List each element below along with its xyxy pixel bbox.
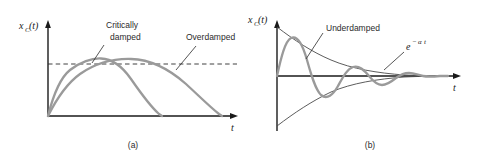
panel-b-caption: (b) bbox=[365, 140, 376, 150]
overdamped-leader-line bbox=[176, 46, 196, 70]
envelope-label: e − α t bbox=[406, 38, 427, 52]
critically-damped-label-line1: Critically bbox=[106, 20, 139, 30]
panel-b: x C (t) t Underdamped e − α t (b) bbox=[247, 14, 461, 150]
underdamped-curve bbox=[277, 38, 448, 97]
critically-damped-label: Critically damped bbox=[106, 20, 141, 42]
panel-a-x-axis bbox=[48, 113, 238, 119]
critically-damped-leader-line bbox=[92, 45, 104, 63]
panel-b-y-axis-label: x C (t) bbox=[247, 14, 268, 28]
panel-b-y-label-base: x bbox=[247, 14, 253, 25]
panel-a-y-label-base: x bbox=[18, 20, 24, 31]
panel-a-caption: (a) bbox=[128, 140, 139, 150]
panel-a: x C (t) t Critically damped Overdamped (… bbox=[18, 20, 238, 150]
panel-b-x-axis-label: t bbox=[453, 82, 456, 93]
overdamped-label: Overdamped bbox=[186, 32, 235, 42]
envelope-label-base: e bbox=[406, 41, 411, 52]
envelope-label-t: t bbox=[424, 38, 427, 46]
critically-damped-label-line2: damped bbox=[110, 32, 141, 42]
damped-response-figure: x C (t) t Critically damped Overdamped (… bbox=[0, 0, 480, 156]
envelope-label-minus: − bbox=[412, 38, 417, 46]
envelope-label-alpha: α bbox=[418, 38, 422, 46]
figure-container: x C (t) t Critically damped Overdamped (… bbox=[0, 0, 480, 156]
lower-envelope-curve bbox=[277, 76, 448, 126]
envelope-leader-line bbox=[384, 52, 404, 70]
panel-a-y-label-arg: (t) bbox=[29, 20, 39, 32]
underdamped-label: Underdamped bbox=[326, 23, 380, 33]
panel-a-y-axis bbox=[45, 20, 51, 116]
panel-a-y-axis-label: x C (t) bbox=[18, 20, 39, 34]
panel-b-y-label-arg: (t) bbox=[258, 14, 268, 26]
panel-a-x-axis-label: t bbox=[231, 122, 234, 133]
